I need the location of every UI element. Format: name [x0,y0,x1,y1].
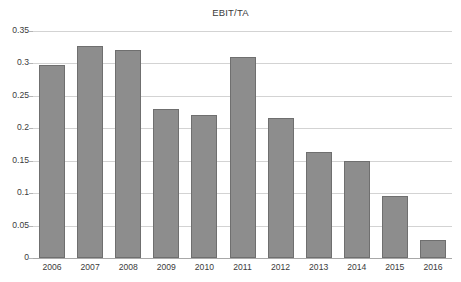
bar [191,115,217,258]
bar [268,118,294,258]
bar [77,46,103,258]
bar [39,65,65,258]
x-axis-label: 2009 [147,262,185,272]
x-axis-label: 2014 [338,262,376,272]
x-axis-label: 2016 [414,262,452,272]
x-axis-label: 2010 [185,262,223,272]
bar [382,196,408,258]
bar [115,50,141,258]
x-axis-label: 2011 [223,262,261,272]
bar [230,57,256,258]
bar [153,109,179,258]
x-axis-label: 2006 [33,262,71,272]
bar [344,161,370,258]
x-axis-label: 2015 [376,262,414,272]
chart-container: EBIT/TA 00.050.10.150.20.250.30.35 20062… [0,0,461,282]
bar-series: 2006200720082009201020112012201320142015… [0,0,461,282]
x-axis-label: 2007 [71,262,109,272]
x-axis-label: 2013 [300,262,338,272]
bar [306,152,332,258]
x-axis-label: 2012 [262,262,300,272]
x-axis-label: 2008 [109,262,147,272]
bar [420,240,446,258]
